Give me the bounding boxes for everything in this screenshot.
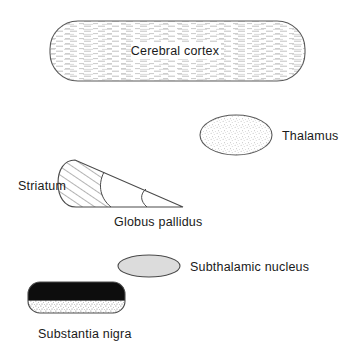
- thalamus-structure: Thalamus: [200, 115, 338, 155]
- substantia-nigra-label: Substantia nigra: [38, 327, 132, 341]
- globus-pallidus-label: Globus pallidus: [114, 215, 202, 229]
- cerebral-cortex-label: Cerebral cortex: [131, 44, 220, 58]
- subthalamic-nucleus-label: Subthalamic nucleus: [190, 260, 309, 274]
- subthalamic-nucleus-shape: [118, 255, 180, 277]
- substantia-nigra-fill-group: [28, 282, 125, 313]
- substantia-nigra-structure: Substantia nigra: [28, 282, 132, 341]
- thalamus-shape: [200, 115, 272, 155]
- subthalamic-nucleus-structure: Subthalamic nucleus: [118, 255, 309, 277]
- diagram-canvas: Cerebral cortex Thalamus Striatum Globus…: [0, 0, 347, 356]
- globus-pallidus-boundary-arc: [142, 189, 147, 207]
- cerebral-cortex-structure: Cerebral cortex: [50, 21, 305, 81]
- basal-ganglia-diagram: Cerebral cortex Thalamus Striatum Globus…: [0, 0, 347, 356]
- striatum-globus-pallidus-structure: Striatum Globus pallidus: [18, 160, 202, 229]
- striatum-label: Striatum: [18, 179, 66, 193]
- thalamus-label: Thalamus: [282, 129, 338, 143]
- substantia-nigra-upper-black: [28, 282, 125, 301]
